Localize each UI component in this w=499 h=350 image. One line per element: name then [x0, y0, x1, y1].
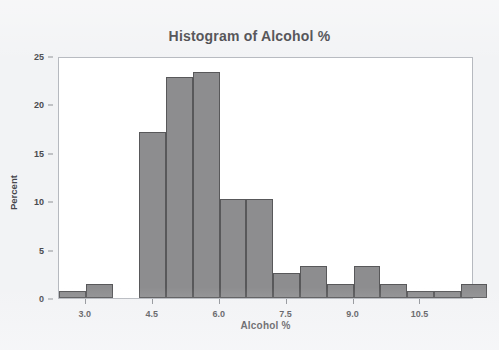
- y-axis-tick-mark: [48, 153, 53, 154]
- histogram-bar: [380, 284, 407, 298]
- y-axis-tick-mark: [48, 202, 53, 203]
- x-axis-tick-label: 6.0: [212, 309, 225, 319]
- y-axis-tick-mark: [48, 105, 53, 106]
- plot-frame: [58, 57, 473, 299]
- histogram-bar: [461, 284, 488, 298]
- x-axis-tick-mark: [286, 299, 287, 304]
- histogram-figure: Histogram of Alcohol % Percent 051015202…: [0, 0, 499, 350]
- histogram-bar: [193, 72, 220, 299]
- y-axis-tick-mark: [48, 299, 53, 300]
- y-axis-tick-label: 5: [39, 246, 44, 256]
- histogram-bar: [300, 266, 327, 298]
- x-axis-tick-label: 7.5: [279, 309, 292, 319]
- x-axis-tick-mark: [419, 299, 420, 304]
- y-axis-tick-label: 15: [34, 149, 44, 159]
- x-axis-tick-mark: [152, 299, 153, 304]
- y-axis-tick-mark: [48, 250, 53, 251]
- x-axis-tick-mark: [85, 299, 86, 304]
- x-axis-tick-label: 4.5: [145, 309, 158, 319]
- y-axis-tick-mark: [48, 57, 53, 58]
- y-axis-tick-label: 0: [39, 294, 44, 304]
- x-axis-tick-mark: [353, 299, 354, 304]
- y-axis-tick-label: 10: [34, 197, 44, 207]
- histogram-bar: [139, 132, 166, 298]
- histogram-bar: [220, 199, 247, 298]
- plot-area: [59, 58, 472, 298]
- chart-title: Histogram of Alcohol %: [0, 28, 499, 44]
- y-axis: Percent 0510152025: [0, 52, 58, 307]
- histogram-bar: [434, 291, 461, 298]
- histogram-bar: [354, 266, 381, 298]
- histogram-bar: [86, 284, 113, 298]
- x-axis-tick-mark: [219, 299, 220, 304]
- y-axis-tick-label: 20: [34, 100, 44, 110]
- histogram-bar: [59, 291, 86, 298]
- y-axis-title: Percent: [8, 175, 19, 210]
- y-axis-tick-label: 25: [34, 52, 44, 62]
- x-axis-title: Alcohol %: [58, 320, 473, 331]
- x-axis-tick-label: 10.5: [411, 309, 429, 319]
- x-axis-tick-label: 3.0: [79, 309, 92, 319]
- x-axis-tick-label: 9.0: [346, 309, 359, 319]
- histogram-bar: [166, 77, 193, 298]
- histogram-bar: [407, 291, 434, 298]
- histogram-bar: [246, 199, 273, 298]
- histogram-bar: [273, 273, 300, 298]
- histogram-bar: [327, 284, 354, 298]
